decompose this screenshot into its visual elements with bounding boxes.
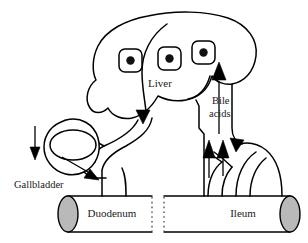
- arrow-bile-flow-down-icon: [136, 110, 150, 124]
- bile-duct-right-wall: [102, 118, 152, 196]
- reabsorption-arc-2-left: [236, 152, 256, 196]
- arrow-reabsorption-1-icon: [203, 140, 215, 158]
- duodenum-label: Duodenum: [88, 207, 137, 219]
- hepatocyte-cell-3: [192, 41, 215, 64]
- reabsorption-up-arrow-2: [217, 140, 229, 176]
- liver-organ: [87, 12, 256, 118]
- bile-duct-left-wall: [94, 120, 138, 162]
- hepatocyte-1-nucleus: [126, 56, 134, 64]
- arrow-gallbladder-down-icon: [30, 147, 40, 160]
- ileum-label: Ileum: [230, 207, 256, 219]
- hepatocyte-3-nucleus: [199, 48, 207, 56]
- bile-duct-into-duodenum: [122, 168, 126, 196]
- bile-duct-liver-to-duodenum: [94, 110, 152, 196]
- liver-label: Liver: [148, 77, 172, 89]
- hepatocyte-cell-1: [119, 49, 142, 72]
- ileum-distal-cap: [280, 196, 300, 232]
- hepatocyte-2-nucleus: [165, 54, 173, 62]
- gallbladder-organ: [30, 119, 106, 180]
- ileal-reabsorption-arcs: [206, 143, 282, 196]
- diagram-canvas: Liver Bile acids Gallbladder Duodenum Il…: [0, 0, 308, 243]
- bile-acids-label-line2: acids: [209, 108, 231, 119]
- gallbladder-concentration-arrow: [30, 126, 40, 160]
- arrow-reabsorption-inflow-icon: [230, 138, 244, 152]
- portal-vein-left-wall: [196, 100, 204, 196]
- arrow-reabsorption-2-icon: [217, 140, 229, 158]
- reabsorption-arc-1-left: [208, 162, 222, 196]
- bile-acids-label-line1: Bile: [212, 95, 230, 106]
- portal-vein-right-wall: [232, 84, 242, 144]
- hepatocyte-cell-2: [158, 47, 181, 70]
- reabsorption-arc-3-outer: [240, 143, 282, 196]
- reabsorption-arc-2-right: [250, 158, 266, 196]
- gallbladder-label: Gallbladder: [14, 179, 64, 190]
- gallbladder-lumen: [50, 130, 96, 160]
- enterohepatic-circulation-diagram: Liver Bile acids Gallbladder Duodenum Il…: [0, 0, 308, 243]
- duodenum-proximal-cap: [58, 196, 78, 232]
